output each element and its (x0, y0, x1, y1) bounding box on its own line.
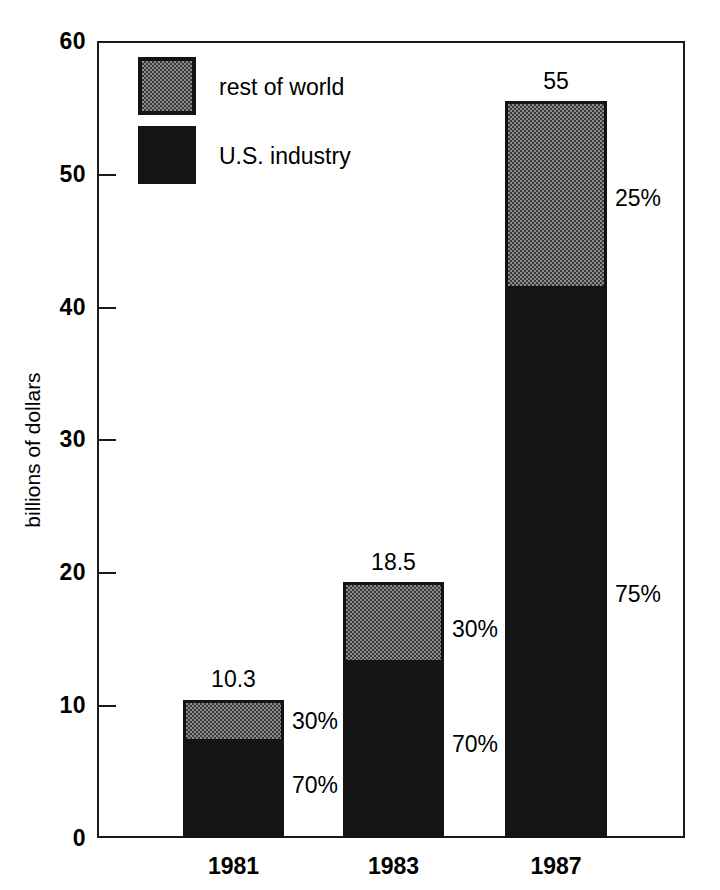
y-tick-label-60: 60 (46, 30, 86, 53)
bar-1983-segment-rest-of-world[interactable] (343, 582, 444, 663)
stacked-bar-chart: billions of dollars 60 50 40 30 20 10 0 … (0, 0, 720, 890)
y-tick-label-20: 20 (46, 561, 86, 584)
x-tick-label-1981: 1981 (183, 855, 284, 878)
bar-1983-pct-us-industry: 70% (452, 733, 498, 756)
legend-label-rest-of-world: rest of world (219, 76, 344, 99)
bar-1981-pct-us-industry: 70% (292, 774, 338, 797)
y-tick-mark-20 (99, 572, 116, 574)
y-tick-label-10: 10 (46, 694, 86, 717)
y-axis-title: billions of dollars (22, 372, 43, 527)
bar-1983-segment-us-industry[interactable] (343, 662, 444, 838)
bar-1987-segment-rest-of-world[interactable] (505, 101, 607, 289)
bar-1981-segment-rest-of-world[interactable] (183, 700, 284, 742)
bar-1981-segment-us-industry[interactable] (183, 741, 284, 838)
bar-1987-total-label: 55 (505, 70, 607, 93)
bar-1987-pct-rest-of-world: 25% (615, 187, 661, 210)
y-tick-label-50: 50 (46, 163, 86, 186)
bar-1987-segment-us-industry[interactable] (505, 287, 607, 838)
bar-1981[interactable] (183, 700, 284, 838)
bar-1981-pct-rest-of-world: 30% (292, 710, 338, 733)
bar-1987-pct-us-industry: 75% (615, 583, 661, 606)
bar-1981-total-label: 10.3 (183, 668, 284, 691)
bar-1983-total-label: 18.5 (343, 551, 444, 574)
y-tick-mark-40 (99, 307, 116, 309)
legend-label-us-industry: U.S. industry (219, 145, 351, 168)
legend-swatch-rest-of-world (138, 57, 196, 115)
bar-1987[interactable] (505, 101, 607, 838)
x-tick-label-1987: 1987 (505, 855, 607, 878)
x-tick-label-1983: 1983 (343, 855, 444, 878)
bar-1983-pct-rest-of-world: 30% (452, 618, 498, 641)
y-tick-label-0: 0 (46, 827, 86, 850)
y-tick-label-30: 30 (46, 428, 86, 451)
y-tick-mark-10 (99, 705, 116, 707)
y-tick-label-40: 40 (46, 296, 86, 319)
legend-swatch-us-industry (138, 126, 196, 184)
y-tick-mark-30 (99, 439, 116, 441)
bar-1983[interactable] (343, 582, 444, 838)
y-tick-mark-50 (99, 174, 116, 176)
